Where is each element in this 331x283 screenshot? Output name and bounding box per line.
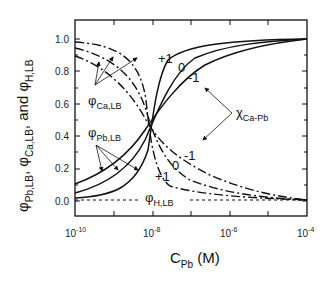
- label-lower-zero: 0: [172, 158, 179, 173]
- pb-arrow-3: [96, 145, 138, 170]
- label-upper-zero: 0: [178, 60, 185, 75]
- y-axis-title: φPb,LB, φCa,LB, and φH,LB: [14, 59, 35, 212]
- y-ticks: [75, 39, 307, 201]
- x-tick-3: 10-4: [297, 226, 314, 239]
- x-axis-title: CPb (M): [170, 249, 220, 270]
- label-lower-plus1: +1: [155, 169, 170, 184]
- y-tick-2: 0.4: [55, 131, 69, 142]
- label-phi-h-lb: φH,LB: [145, 190, 173, 208]
- label-upper-minus1: -1: [188, 70, 200, 85]
- chart: 0.0 0.2 0.4 0.6 0.8 1.0 10-10 10-8 10-6 …: [0, 0, 331, 283]
- x-tick-2: 10-6: [220, 226, 237, 239]
- label-phi-pb-lb: φPb,LB: [88, 125, 121, 143]
- y-tick-labels: 0.0 0.2 0.4 0.6 0.8 1.0: [55, 34, 69, 207]
- annotation-arrows: [95, 57, 232, 171]
- y-tick-3: 0.6: [55, 99, 69, 110]
- series-pb-lb: [75, 39, 307, 198]
- chi-arrow-up: [205, 88, 232, 113]
- label-lower-minus1: -1: [184, 148, 196, 163]
- series-ca-lb: [75, 42, 307, 200]
- x-tick-0: 10-10: [65, 226, 86, 239]
- label-chi-ca-pb: χCa-Pb: [236, 105, 268, 123]
- pb-arrow-2: [96, 145, 118, 170]
- label-upper-plus1: +1: [158, 51, 173, 66]
- ca-arrow-3: [95, 58, 137, 85]
- label-phi-ca-lb: φCa,LB: [88, 93, 121, 111]
- ca-curve-plus1: [75, 42, 307, 200]
- y-tick-4: 0.8: [55, 66, 69, 77]
- y-tick-0: 0.0: [55, 196, 69, 207]
- x-tick-1: 10-8: [143, 226, 160, 239]
- pb-curve-plus1: [75, 39, 307, 198]
- y-tick-5: 1.0: [55, 34, 69, 45]
- chi-arrow-down: [203, 113, 232, 140]
- x-tick-labels: 10-10 10-8 10-6 10-4: [65, 226, 314, 239]
- y-tick-1: 0.2: [55, 163, 69, 174]
